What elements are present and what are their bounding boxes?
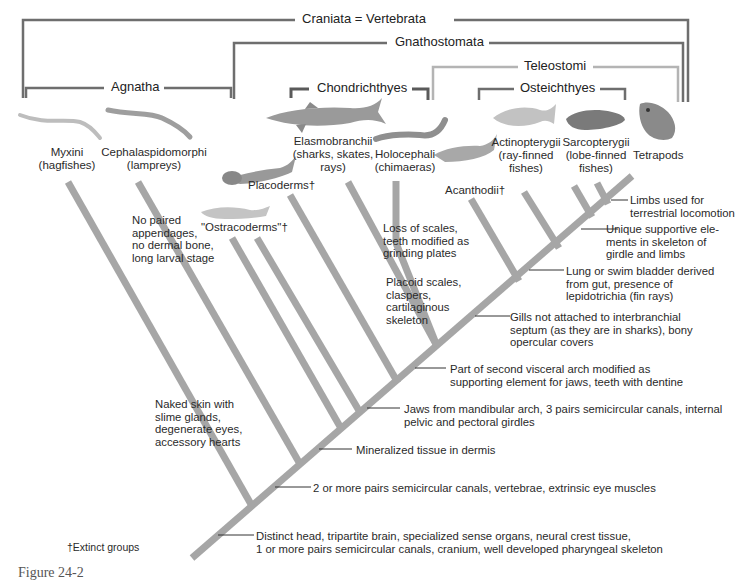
taxon-myxini: Myxini (hagfishes): [34, 146, 100, 172]
trait-tetrapods: Limbs used for terrestrial locomotion: [630, 194, 735, 219]
lamprey-illustration: [108, 110, 190, 137]
trait-mineralized-dermis: Mineralized tissue in dermis: [356, 444, 495, 457]
taxon-cephalaspidomorphi: Cephalaspidomorphi (lampreys): [94, 146, 214, 172]
clade-teleostomi: Teleostomi: [519, 58, 591, 73]
taxon-actinopterygii: Actinopterygii (ray-finned fishes): [490, 136, 562, 175]
clade-craniata: Craniata = Vertebrata: [297, 11, 431, 26]
taxon-holocephali: Holocephali (chimaeras): [370, 148, 440, 174]
branch-ostracoderm-1: [232, 238, 342, 430]
chimaera-illustration: [376, 120, 445, 139]
trait-vertebrae: 2 or more pairs semicircular canals, ver…: [313, 482, 656, 495]
perch-illustration: [493, 104, 556, 126]
trait-second-visceral-arch: Part of second visceral arch modified as…: [450, 363, 683, 388]
figure-caption: Figure 24-2: [18, 565, 84, 581]
taxon-elasmobranchii: Elasmobranchii (sharks, skates, rays): [290, 135, 376, 174]
branch-acanthodii: [471, 199, 519, 281]
shark-illustration: [266, 98, 386, 133]
taxon-tetrapods: Tetrapods: [633, 149, 684, 162]
clade-gnathostomata: Gnathostomata: [390, 34, 489, 49]
acanthodian-illustration: [434, 134, 497, 162]
branch-ostracoderm-2: [257, 238, 361, 414]
clade-agnatha: Agnatha: [106, 79, 164, 94]
trait-sarcopterygii: Unique supportive ele- ments in skeleton…: [606, 223, 719, 261]
taxon-placoderms: Placoderms†: [248, 179, 315, 192]
branch-actinopterygii: [524, 192, 559, 248]
footnote-extinct: †Extinct groups: [67, 541, 139, 554]
trait-holocephali: Loss of scales, teeth modified as grindi…: [383, 222, 469, 260]
trait-craniata: Distinct head, tripartite brain, special…: [256, 530, 663, 555]
trait-gnathostomata: Jaws from mandibular arch, 3 pairs semic…: [404, 403, 722, 428]
hagfish-illustration: [20, 115, 100, 138]
coelacanth-illustration: [566, 110, 625, 130]
trait-lamprey: No paired appendages, no dermal bone, lo…: [132, 214, 214, 264]
trait-hagfish: Naked skin with slime glands, degenerate…: [155, 398, 242, 448]
frog-illustration: [639, 102, 675, 140]
trait-teleostomi: Gills not attached to interbranchial sep…: [510, 311, 693, 349]
branch-sarcopterygii: [574, 186, 592, 217]
clade-chondrichthyes: Chondrichthyes: [312, 80, 412, 95]
trait-osteichthyes: Lung or swim bladder derived from gut, p…: [566, 265, 714, 303]
bracket-gnathostomata: [234, 43, 683, 102]
branch-placoderms: [290, 195, 398, 383]
trait-chondrichthyes: Placoid scales, claspers, cartilaginous …: [386, 276, 461, 326]
clade-osteichthyes: Osteichthyes: [515, 80, 600, 95]
taxon-acanthodii: Acanthodii†: [445, 184, 505, 197]
taxon-sarcopterygii: Sarcopterygii (lobe-finned fishes): [560, 136, 632, 175]
